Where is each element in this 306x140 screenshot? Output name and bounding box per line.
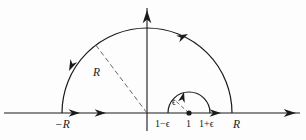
label-one: 1 [186, 119, 191, 129]
label-one-plus-eps: 1+ϵ [199, 119, 214, 129]
contour-svg [0, 0, 306, 140]
label-R-right: R [233, 119, 240, 131]
label-R-radius: R [93, 67, 100, 79]
pole-point [186, 110, 191, 115]
label-minus-R: −R [55, 119, 70, 131]
label-one-minus-eps: 1−ϵ [155, 119, 170, 129]
contour-diagram: −RRϵ1−ϵ11+ϵR [0, 0, 306, 140]
arrowhead-outer-arc-left [66, 59, 78, 72]
arrowhead-outer-arc-right [176, 31, 190, 43]
outer-radius-dashed-line [96, 45, 147, 113]
label-epsilon: ϵ [172, 98, 176, 108]
